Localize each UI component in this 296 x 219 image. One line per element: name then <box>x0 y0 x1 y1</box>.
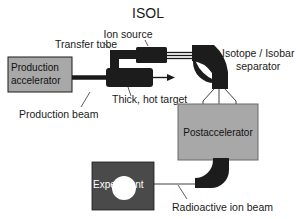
ion-source-box <box>136 47 167 63</box>
separator-label-line1: Isotope / Isobar <box>222 47 295 59</box>
extraction-electrodes <box>167 53 194 59</box>
experiment-block: Experiment <box>92 162 154 210</box>
target-exit-arrow-head <box>167 74 175 81</box>
postaccelerator-label: Postaccelerator <box>183 127 253 138</box>
bend-magnet-entry <box>213 158 229 166</box>
production-beam-label: Production beam <box>19 108 99 120</box>
production-accelerator-block: Production accelerator <box>8 57 72 92</box>
thick-hot-target-label: Thick, hot target <box>112 93 187 105</box>
production-accelerator-label-line1: Production <box>11 62 59 73</box>
ion-source-label: Ion source <box>103 28 152 40</box>
radioactive-ion-beam-leader <box>178 185 187 199</box>
postaccelerator-block: Postaccelerator <box>178 104 258 160</box>
production-accelerator-label-line2: accelerator <box>11 75 61 86</box>
isol-diagram: ISOL Production accelerator Production b… <box>0 0 296 219</box>
production-beam-leader <box>81 92 90 107</box>
bend-magnet-block <box>195 158 229 188</box>
fan-line-left <box>203 89 214 104</box>
fan-line-right <box>225 89 236 104</box>
isol-diagram-canvas: ISOL Production accelerator Production b… <box>0 0 296 219</box>
diagram-title: ISOL <box>132 5 164 21</box>
separated-beam-fan <box>203 89 236 104</box>
experiment-label: Experiment <box>93 179 144 190</box>
radioactive-ion-beam-label: Radioactive ion beam <box>172 201 273 213</box>
ion-source-leader <box>145 40 148 46</box>
separator-label-line2: separator <box>236 60 281 72</box>
ion-source-block <box>136 47 167 63</box>
